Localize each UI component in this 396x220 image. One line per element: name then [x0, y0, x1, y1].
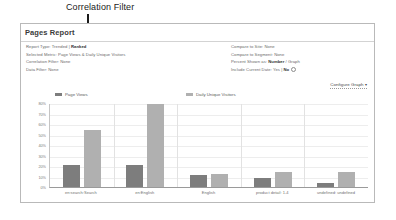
- bar-daily-unique-visitors[interactable]: [211, 174, 228, 187]
- meta-row-value[interactable]: Yes |: [273, 67, 284, 72]
- configure-graph-label: Configure Graph: [330, 82, 363, 87]
- x-axis-label: English: [177, 190, 241, 200]
- plot-area: [49, 104, 368, 188]
- bar-page-views[interactable]: [190, 175, 207, 187]
- bar-group: [304, 104, 368, 187]
- meta-row: Report Type: Trended | Ranked: [26, 43, 125, 51]
- meta-row-label: Data Filter:: [26, 67, 48, 72]
- y-axis-tick-label: 70%: [38, 113, 46, 117]
- y-axis-tick-label: 0%: [41, 186, 47, 190]
- configure-graph-button[interactable]: Configure Graph▾: [330, 82, 367, 89]
- chevron-down-icon: ▾: [365, 82, 367, 87]
- bar-daily-unique-visitors[interactable]: [275, 172, 292, 187]
- x-axis-label: en:English: [113, 190, 177, 200]
- y-axis: 80%70%60%50%40%30%20%10%0%: [26, 104, 48, 188]
- y-axis-tick-label: 30%: [38, 155, 46, 159]
- meta-row: Selected Metric: Page Views & Daily Uniq…: [26, 51, 125, 59]
- y-axis-tick-label: 20%: [38, 165, 46, 169]
- meta-row-value[interactable]: / Graph: [284, 59, 300, 64]
- bar-page-views[interactable]: [317, 183, 334, 187]
- legend-label-daily-unique-visitors: Daily Unique Visitors: [196, 92, 236, 97]
- y-axis-tick-label: 10%: [38, 176, 46, 180]
- meta-row-emphasis[interactable]: No: [284, 67, 290, 72]
- meta-row-value: None: [264, 44, 274, 49]
- meta-row-value: None: [60, 59, 70, 64]
- bar-group: [50, 104, 114, 187]
- bar-daily-unique-visitors[interactable]: [147, 104, 164, 187]
- meta-row: Data Filter: None: [26, 66, 125, 74]
- report-meta-left: Report Type: Trended | RankedSelected Me…: [26, 43, 125, 73]
- x-axis-label: undefined: undefined: [304, 190, 368, 200]
- bar-chart: 80%70%60%50%40%30%20%10%0% en:search:Sea…: [26, 104, 371, 198]
- y-axis-tick-label: 60%: [38, 123, 46, 127]
- x-axis-label: product detail: 1-4: [240, 190, 304, 200]
- bar-group: [114, 104, 178, 187]
- meta-row-value: None: [48, 67, 58, 72]
- legend-item-page-views[interactable]: Page Views: [55, 92, 88, 97]
- legend-swatch-daily-unique-visitors: [186, 93, 193, 96]
- chart-legend: Page Views Daily Unique Visitors: [21, 92, 374, 103]
- page-title: Pages Report: [25, 28, 75, 37]
- y-axis-tick-label: 50%: [38, 134, 46, 138]
- legend-swatch-page-views: [55, 93, 62, 96]
- report-meta-right: Compare to Site: NoneCompare to Segment:…: [231, 43, 300, 73]
- meta-row-emphasis[interactable]: Ranked: [71, 44, 86, 49]
- bar-groups: [50, 104, 368, 187]
- meta-row: Percent Shown as: Number / Graph: [231, 58, 300, 66]
- meta-row: Correlation Filter: None: [26, 58, 125, 66]
- meta-row: Include Current Date: Yes | No: [231, 66, 300, 74]
- meta-row-value: None: [274, 52, 284, 57]
- bar-page-views[interactable]: [254, 178, 271, 187]
- bar-group: [177, 104, 241, 187]
- meta-row-label: Compare to Site:: [231, 44, 264, 49]
- bar-page-views[interactable]: [63, 165, 80, 187]
- meta-row-label: Selected Metric:: [26, 52, 58, 57]
- bar-page-views[interactable]: [126, 165, 143, 187]
- meta-row-value[interactable]: Trended |: [52, 44, 71, 49]
- meta-row-label: Percent Shown as:: [231, 59, 268, 64]
- meta-row-label: Include Current Date:: [231, 67, 273, 72]
- meta-row-emphasis[interactable]: Number: [268, 59, 284, 64]
- x-axis-label: en:search:Search: [49, 190, 113, 200]
- bar-daily-unique-visitors[interactable]: [338, 172, 355, 187]
- bar-group: [241, 104, 305, 187]
- y-axis-tick-label: 40%: [38, 144, 46, 148]
- pages-report-panel: Pages Report Report Type: Trended | Rank…: [20, 23, 375, 203]
- x-axis-labels: en:search:Searchen:EnglishEnglishproduct…: [49, 190, 368, 200]
- bar-daily-unique-visitors[interactable]: [84, 130, 101, 187]
- y-axis-tick-label: 80%: [38, 102, 46, 106]
- legend-item-daily-unique-visitors[interactable]: Daily Unique Visitors: [186, 92, 236, 97]
- meta-row: Compare to Segment: None: [231, 51, 300, 59]
- meta-row: Compare to Site: None: [231, 43, 300, 51]
- title-divider: [21, 41, 374, 42]
- meta-row-label: Report Type:: [26, 44, 52, 49]
- info-circle-icon[interactable]: [291, 67, 296, 72]
- report-meta: Report Type: Trended | RankedSelected Me…: [21, 43, 374, 87]
- legend-label-page-views: Page Views: [65, 92, 88, 97]
- meta-row-value: Page Views & Daily Unique Visitors: [58, 52, 125, 57]
- meta-row-label: Compare to Segment:: [231, 52, 274, 57]
- meta-row-label: Correlation Filter:: [26, 59, 60, 64]
- annotation-label: Correlation Filter: [66, 2, 134, 12]
